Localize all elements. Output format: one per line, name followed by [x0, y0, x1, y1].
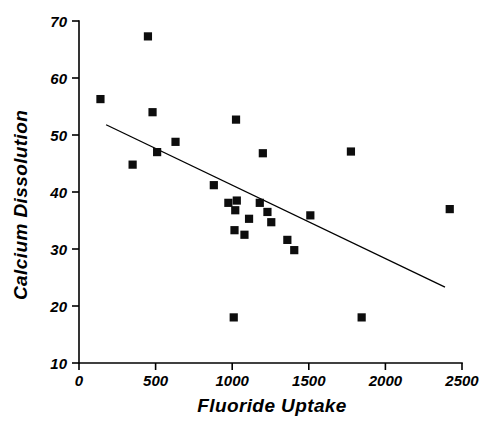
data-point-marker: [240, 231, 248, 239]
y-axis-title: Calcium Dissolution: [10, 110, 31, 300]
data-point-marker: [245, 215, 253, 223]
data-point-marker: [171, 138, 179, 146]
y-axis-tick-labels: 10203040506070: [49, 13, 67, 372]
y-tick-label: 20: [49, 298, 67, 315]
data-point-marker: [230, 313, 238, 321]
y-tick-label: 10: [50, 355, 67, 372]
y-tick-label: 60: [50, 70, 67, 87]
data-point-marker: [129, 161, 137, 169]
data-point-marker: [232, 116, 240, 124]
data-point-marker: [96, 95, 104, 103]
y-tick-label: 50: [50, 127, 67, 144]
x-axis-ticks: [79, 363, 462, 370]
data-point-marker: [306, 211, 314, 219]
x-tick-label: 2000: [368, 372, 403, 389]
data-point-marker: [446, 205, 454, 213]
data-point-marker: [210, 181, 218, 189]
chart-canvas: 10203040506070 05001000150020002500 Calc…: [0, 0, 492, 423]
data-point-marker: [263, 208, 271, 216]
data-point-marker: [148, 108, 156, 116]
x-tick-label: 0: [75, 372, 84, 389]
data-point-marker: [230, 226, 238, 234]
data-point-markers: [96, 32, 453, 321]
data-point-marker: [144, 32, 152, 40]
data-point-marker: [259, 149, 267, 157]
data-point-marker: [283, 236, 291, 244]
data-point-marker: [231, 206, 239, 214]
data-point-marker: [290, 246, 298, 254]
data-point-marker: [256, 199, 264, 207]
y-tick-label: 40: [49, 184, 67, 201]
data-point-marker: [347, 147, 355, 155]
data-point-marker: [153, 148, 161, 156]
data-point-marker: [267, 218, 275, 226]
y-tick-label: 70: [50, 13, 67, 30]
x-tick-label: 1500: [292, 372, 326, 389]
x-axis-title: Fluoride Uptake: [197, 395, 347, 416]
data-point-marker: [358, 313, 366, 321]
x-axis-tick-labels: 05001000150020002500: [75, 372, 480, 389]
y-tick-label: 30: [50, 241, 67, 258]
x-tick-label: 2500: [444, 372, 479, 389]
scatter-plot-figure: 10203040506070 05001000150020002500 Calc…: [0, 0, 492, 423]
data-point-marker: [233, 196, 241, 204]
data-point-marker: [224, 199, 232, 207]
y-axis-ticks: [72, 21, 79, 363]
x-tick-label: 500: [143, 372, 169, 389]
x-tick-label: 1000: [216, 372, 250, 389]
